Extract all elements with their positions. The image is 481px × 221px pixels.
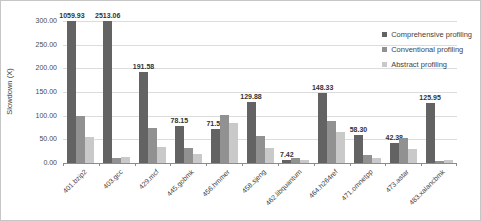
data-label-458.sjeng: 129.88 <box>221 93 281 100</box>
data-label-464.h264ref: 148.33 <box>293 84 353 91</box>
bar-464.h264ref-series0 <box>318 93 327 163</box>
legend-item-1: Conventional profiling <box>382 45 472 54</box>
bar-464.h264ref-series2 <box>336 132 345 163</box>
y-tick-label-150: 150.00 <box>1 88 57 95</box>
x-axis-tick-7 <box>314 163 315 166</box>
legend-label: Comprehensive profiling <box>391 30 472 39</box>
gridline-100 <box>63 116 457 117</box>
y-tick-label-0: 0.00 <box>1 159 57 166</box>
x-axis-tick-2 <box>135 163 136 166</box>
x-axis-tick-1 <box>99 163 100 166</box>
bar-401.bzip2-series2 <box>85 137 94 163</box>
data-label-471.omnetpp: 58.30 <box>328 126 388 133</box>
y-tick-label-250: 250.00 <box>1 41 57 48</box>
slowdown-bar-chart: Slowdown (X) 1059.932513.06191.5878.1571… <box>0 0 481 221</box>
data-label-403.gcc: 2513.06 <box>78 12 138 19</box>
legend-swatch-icon <box>382 47 387 52</box>
legend-item-0: Comprehensive profiling <box>382 30 472 39</box>
bar-462.libquantum-series1 <box>291 158 300 163</box>
x-axis-tick-9 <box>385 163 386 166</box>
legend-swatch-icon <box>382 32 387 37</box>
x-axis-tick-4 <box>206 163 207 166</box>
bar-429.mcf-series0 <box>139 72 148 163</box>
bar-462.libquantum-series0 <box>282 160 291 164</box>
x-axis-tick-5 <box>242 163 243 166</box>
bar-445.gobmk-series1 <box>184 148 193 163</box>
bar-429.mcf-series1 <box>148 128 157 164</box>
bar-473.astar-series0 <box>390 143 399 163</box>
bar-403.gcc-series0 <box>103 21 112 163</box>
bar-401.bzip2-series1 <box>76 116 85 163</box>
bar-403.gcc-series1 <box>112 158 121 163</box>
bar-473.astar-series2 <box>408 149 417 163</box>
data-label-462.libquantum: 7.42 <box>257 151 317 158</box>
bar-403.gcc-series2 <box>121 157 130 163</box>
bar-445.gobmk-series0 <box>175 126 184 163</box>
y-tick-label-200: 200.00 <box>1 64 57 71</box>
bar-401.bzip2-series0 <box>67 21 76 163</box>
bar-473.astar-series1 <box>399 138 408 163</box>
legend-swatch-icon <box>382 62 387 67</box>
legend-item-2: Abstract profiling <box>382 60 472 69</box>
data-label-483.xalancbmk: 125.95 <box>400 94 460 101</box>
y-tick-label-100: 100.00 <box>1 112 57 119</box>
bar-456.hmmer-series2 <box>229 123 238 163</box>
legend-label: Abstract profiling <box>391 60 447 69</box>
bar-458.sjeng-series0 <box>247 102 256 163</box>
bar-483.xalancbmk-series2 <box>444 160 453 163</box>
bar-483.xalancbmk-series0 <box>426 103 435 163</box>
gridline-300 <box>63 21 457 22</box>
data-label-429.mcf: 191.58 <box>114 63 174 70</box>
legend: Comprehensive profilingConventional prof… <box>382 30 472 69</box>
bar-429.mcf-series2 <box>157 147 166 163</box>
bar-445.gobmk-series2 <box>193 154 202 163</box>
y-tick-label-50: 50.00 <box>1 135 57 142</box>
bar-471.omnetpp-series1 <box>363 155 372 163</box>
bar-456.hmmer-series0 <box>211 129 220 163</box>
legend-label: Conventional profiling <box>391 45 463 54</box>
x-axis-tick-0 <box>63 163 64 166</box>
x-axis-tick-10 <box>421 163 422 166</box>
y-tick-label-300: 300.00 <box>1 17 57 24</box>
x-axis-tick-3 <box>170 163 171 166</box>
bar-483.xalancbmk-series1 <box>435 161 444 163</box>
bar-471.omnetpp-series0 <box>354 135 363 163</box>
bar-462.libquantum-series2 <box>300 160 309 163</box>
x-axis-tick-6 <box>278 163 279 166</box>
x-axis-tick-11 <box>456 163 457 166</box>
bar-471.omnetpp-series2 <box>372 158 381 163</box>
x-axis-tick-8 <box>350 163 351 166</box>
data-label-473.astar: 42.38 <box>364 134 424 141</box>
bar-456.hmmer-series1 <box>220 115 229 163</box>
